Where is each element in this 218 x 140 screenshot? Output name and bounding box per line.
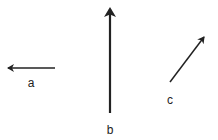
vector-c: c bbox=[167, 37, 204, 107]
arrow-c-icon bbox=[170, 37, 204, 82]
vector-b: b bbox=[107, 9, 114, 137]
vector-diagram: a b c bbox=[0, 0, 218, 140]
vector-c-label: c bbox=[167, 93, 173, 107]
vector-a: a bbox=[8, 68, 55, 90]
vector-b-label: b bbox=[107, 123, 114, 137]
vector-a-label: a bbox=[28, 76, 35, 90]
